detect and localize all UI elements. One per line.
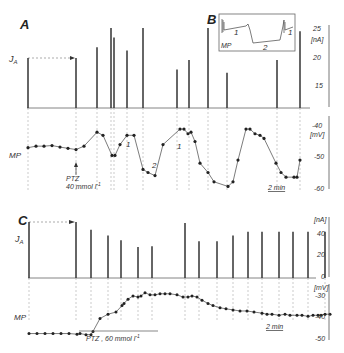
- unit-na-c: [nA]: [313, 216, 328, 224]
- mp-point: [206, 171, 209, 174]
- mp-point: [159, 292, 162, 295]
- mp-point: [248, 128, 251, 131]
- mp-point: [232, 308, 235, 311]
- mp-point: [284, 313, 287, 316]
- mp-point: [74, 148, 77, 151]
- mp-point: [307, 315, 310, 318]
- tick-m40-c: -40: [315, 313, 325, 320]
- mp-point: [198, 162, 201, 165]
- mp-point: [42, 145, 45, 148]
- panel-c: C JA MP PTZ , 60 mmol l-1 2 min [nA] 40 …: [14, 213, 332, 342]
- mp-point: [284, 176, 287, 179]
- ptz-label-a2: 40 mmol l-1: [66, 181, 101, 190]
- mp-point: [212, 304, 215, 307]
- inset-phase-1b: 1: [288, 28, 292, 37]
- mp-point: [34, 145, 37, 148]
- mp-point: [176, 293, 179, 296]
- tick-m40-a: -40: [312, 122, 322, 129]
- mp-point: [258, 134, 261, 137]
- tick-20c: 20: [316, 251, 325, 258]
- unit-mv-a: [mV]: [309, 131, 325, 139]
- mp-point: [52, 332, 55, 335]
- mp-point: [101, 134, 104, 137]
- panel-c-label: C: [18, 213, 28, 228]
- tick-m30: -30: [315, 292, 325, 299]
- mp-point: [76, 333, 79, 336]
- tick-25: 25: [312, 25, 321, 32]
- mp-point: [144, 291, 147, 294]
- mp-point: [261, 312, 264, 315]
- mp-points-c: [28, 291, 332, 336]
- panel-b-inset: B 1 2 1 MP: [207, 12, 295, 52]
- mp-point: [68, 332, 71, 335]
- mp-point: [191, 294, 194, 297]
- mp-point: [226, 185, 229, 188]
- mp-point: [253, 311, 256, 314]
- mp-point: [246, 309, 249, 312]
- unit-na-a: [nA]: [310, 36, 325, 44]
- time-scale-a: 2 min: [267, 184, 285, 191]
- mp-point: [236, 159, 239, 162]
- phase-label-2a: 2: [151, 161, 157, 170]
- mp-point: [274, 162, 277, 165]
- inset-phase-1: 1: [234, 28, 238, 37]
- mp-point: [66, 147, 69, 150]
- phase-label-1a: 1: [126, 140, 130, 149]
- mp-point: [182, 296, 185, 299]
- mp-point: [196, 296, 199, 299]
- mp-point: [115, 311, 118, 314]
- panel-a-label: A: [19, 17, 29, 32]
- mp-point: [266, 313, 269, 316]
- mp-point: [79, 332, 82, 335]
- mp-point: [99, 317, 102, 320]
- mp-point: [58, 145, 61, 148]
- mp-label-a: MP: [9, 151, 22, 160]
- mp-point: [164, 292, 167, 295]
- mp-point: [118, 143, 121, 146]
- mp-point: [107, 313, 110, 316]
- mp-point: [301, 314, 304, 317]
- tick-40: 40: [317, 230, 325, 237]
- mp-point: [231, 180, 234, 183]
- ja-label-a: JA: [8, 54, 18, 65]
- ptz-label-c: PTZ , 60 mmol l-1: [86, 333, 140, 342]
- mp-point: [26, 146, 29, 149]
- mp-point: [132, 294, 135, 297]
- mp-point: [278, 314, 281, 317]
- mp-point: [239, 309, 242, 312]
- tick-m50-c: -50: [315, 335, 325, 342]
- mp-point: [225, 307, 228, 310]
- mp-point: [186, 132, 189, 135]
- mp-point: [219, 306, 222, 309]
- tick-15: 15: [315, 82, 323, 89]
- mp-point: [146, 171, 149, 174]
- mp-point: [187, 296, 190, 299]
- phase-label-1b: 1: [177, 142, 181, 151]
- mp-point: [28, 332, 31, 335]
- mp-point: [137, 296, 140, 299]
- mp-point: [92, 330, 95, 333]
- mp-point: [44, 332, 47, 335]
- mp-point: [271, 313, 274, 316]
- tick-m60-a: -60: [314, 185, 324, 192]
- mp-point: [292, 176, 295, 179]
- ja-label-c: JA: [14, 234, 24, 245]
- mp-point: [289, 314, 292, 317]
- mp-point: [82, 145, 85, 148]
- arrow-icon: [70, 56, 75, 60]
- mp-point: [193, 140, 196, 143]
- mp-point: [201, 299, 204, 302]
- unit-mv-c: [mV]: [313, 284, 329, 292]
- mp-point: [296, 314, 299, 317]
- mp-point: [132, 134, 135, 137]
- mp-point: [50, 144, 53, 147]
- mp-point: [207, 302, 210, 305]
- mp-point: [95, 131, 98, 134]
- ptz-label-a1: PTZ: [66, 175, 80, 182]
- mp-point: [125, 134, 128, 137]
- mp-point: [279, 171, 282, 174]
- mp-point: [141, 168, 144, 171]
- mp-point: [169, 292, 172, 295]
- mp-point: [244, 128, 247, 131]
- mp-point: [189, 131, 192, 134]
